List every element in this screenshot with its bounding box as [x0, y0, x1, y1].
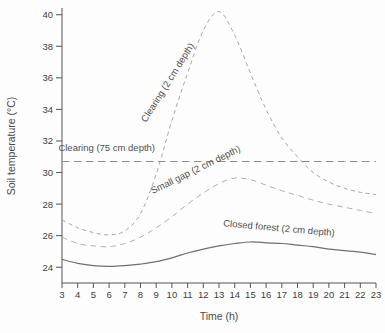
- y-tick-label: 40: [42, 9, 53, 20]
- x-tick-label: 20: [324, 289, 335, 300]
- curve-label-clearing-75cm: Clearing (75 cm depth): [58, 142, 155, 153]
- soil-temperature-chart: 2426283032343638403456789101112131415161…: [0, 0, 385, 333]
- x-tick-label: 17: [277, 289, 288, 300]
- x-tick-label: 8: [138, 289, 143, 300]
- x-tick-label: 21: [339, 289, 350, 300]
- y-tick-label: 32: [42, 135, 53, 146]
- curve-label-clearing-2cm: Clearing (2 cm depth): [138, 41, 196, 124]
- y-tick-label: 34: [42, 104, 53, 115]
- soil-temperature-figure: 2426283032343638403456789101112131415161…: [0, 0, 385, 333]
- x-tick-label: 6: [106, 289, 111, 300]
- x-tick-label: 7: [122, 289, 127, 300]
- x-tick-label: 16: [261, 289, 272, 300]
- x-tick-label: 11: [183, 289, 193, 300]
- x-tick-label: 18: [292, 289, 303, 300]
- curve-label-small-gap: Small gap (2 cm depth): [149, 143, 242, 196]
- x-tick-label: 13: [214, 289, 225, 300]
- curve-label-closed-forest: Closed forest (2 cm depth): [223, 217, 335, 238]
- x-tick-label: 15: [245, 289, 256, 300]
- y-tick-label: 38: [42, 41, 53, 52]
- curve-annotations: Clearing (2 cm depth) Clearing (75 cm de…: [58, 41, 335, 238]
- x-tick-label: 4: [75, 289, 80, 300]
- y-tick-label: 24: [42, 262, 53, 273]
- y-tick-label: 30: [42, 167, 53, 178]
- x-tick-label: 5: [91, 289, 96, 300]
- y-tick-label: 26: [42, 230, 53, 241]
- x-tick-label: 3: [59, 289, 64, 300]
- x-tick-label: 22: [355, 289, 366, 300]
- curve-3-solid: [62, 242, 376, 266]
- x-tick-label: 23: [371, 289, 382, 300]
- x-tick-label: 19: [308, 289, 319, 300]
- x-tick-label: 14: [229, 289, 240, 300]
- x-tick-label: 10: [167, 289, 178, 300]
- y-axis-title: Soil temperature (°C): [5, 97, 17, 196]
- x-tick-label: 12: [198, 289, 209, 300]
- x-axis-title: Time (h): [200, 310, 239, 322]
- x-tick-label: 9: [154, 289, 159, 300]
- curve-0-dashed: [62, 12, 376, 235]
- y-tick-label: 36: [42, 72, 53, 83]
- y-tick-label: 28: [42, 199, 53, 210]
